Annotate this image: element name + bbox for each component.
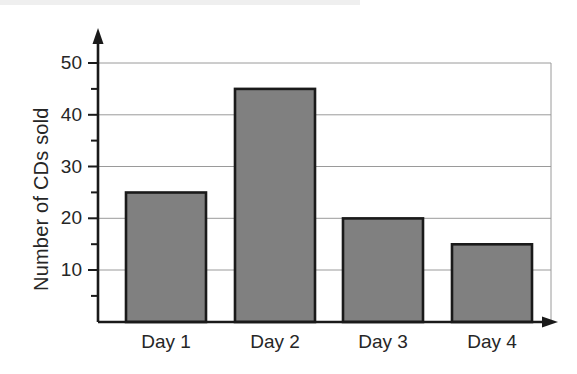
y-tick-label-20: 20 [48, 207, 82, 229]
y-axis [93, 28, 104, 322]
y-tick-label-10: 10 [48, 259, 82, 281]
bar-day-4 [452, 244, 532, 322]
x-tick-label-day-4: Day 4 [442, 331, 542, 353]
y-tick-label-40: 40 [48, 104, 82, 126]
y-tick-label-30: 30 [48, 156, 82, 178]
x-tick-label-day-1: Day 1 [116, 331, 216, 353]
y-tick-label-50: 50 [48, 52, 82, 74]
bar-day-2 [235, 89, 315, 322]
y-major-ticks [88, 63, 98, 270]
bars-group [126, 89, 532, 322]
bar-chart-figure: Number of CDs sold 50 40 30 20 10 Day 1 … [0, 0, 577, 374]
bar-day-3 [343, 218, 423, 322]
x-tick-label-day-3: Day 3 [333, 331, 433, 353]
bar-day-1 [126, 193, 206, 323]
chart-canvas [0, 0, 577, 374]
x-tick-label-day-2: Day 2 [225, 331, 325, 353]
